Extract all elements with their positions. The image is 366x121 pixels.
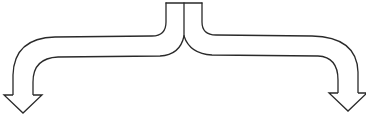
left-branch-outer-edge	[13, 3, 166, 95]
right-arrowhead-icon	[329, 93, 366, 111]
left-branch-arrow	[4, 3, 184, 113]
split-arrow-diagram	[0, 0, 366, 121]
diagram-svg	[0, 0, 366, 121]
left-branch-inner-edge	[33, 36, 184, 95]
right-branch-outer-edge	[202, 3, 358, 93]
stem	[166, 3, 202, 36]
right-branch-inner-edge	[184, 36, 338, 93]
left-arrowhead-icon	[4, 95, 42, 113]
right-branch-arrow	[184, 3, 366, 111]
